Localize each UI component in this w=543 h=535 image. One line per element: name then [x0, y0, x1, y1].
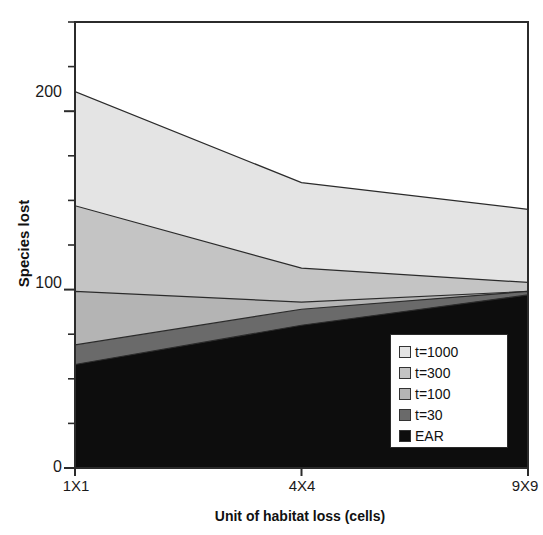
x-axis-title: Unit of habitat loss (cells)	[70, 508, 530, 524]
legend-swatch-icon	[399, 430, 411, 442]
x-tick-label-9x9: 9X9	[490, 477, 543, 494]
legend-item-label: t=100	[415, 387, 450, 401]
legend-item-t-100: t=100	[399, 383, 507, 404]
legend-swatch-icon	[399, 388, 411, 400]
legend-item-ear: EAR	[399, 425, 507, 446]
legend-item-label: t=30	[415, 408, 443, 422]
legend-swatch-icon	[399, 409, 411, 421]
legend-item-t-1000: t=1000	[399, 341, 507, 362]
x-tick-label-4x4: 4X4	[267, 477, 337, 494]
legend-item-t-300: t=300	[399, 362, 507, 383]
x-tick-label-1x1: 1X1	[41, 477, 111, 494]
chart-figure: Species lost 200 100 0 1X1 4X4 9X9 Unit …	[0, 0, 543, 535]
y-tick-label-100: 100	[6, 274, 62, 292]
legend-item-label: EAR	[415, 429, 444, 443]
chart-legend: t=1000t=300t=100t=30EAR	[390, 334, 508, 448]
legend-item-label: t=1000	[415, 345, 458, 359]
legend-item-t-30: t=30	[399, 404, 507, 425]
legend-swatch-icon	[399, 367, 411, 379]
stacked-area-plot	[0, 0, 543, 535]
y-axis-title: Species lost	[15, 174, 32, 314]
legend-swatch-icon	[399, 346, 411, 358]
legend-item-label: t=300	[415, 366, 450, 380]
y-tick-label-0: 0	[6, 458, 62, 476]
y-tick-label-200: 200	[6, 83, 62, 101]
